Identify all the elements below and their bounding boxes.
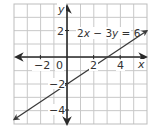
x-tick-label-neg2: −2 [34, 59, 50, 72]
x-axis-label: x [137, 58, 145, 71]
origin-label: 0 [56, 59, 63, 72]
y-tick-label-neg4: −4 [49, 104, 65, 117]
x-tick-label-4: 4 [117, 59, 124, 72]
x-tick-label-2: 2 [90, 59, 97, 72]
y-tick-label-2: 2 [57, 25, 64, 38]
coordinate-plane: −2 0 2 4 2 −2 −4 x y 2x − 3y = 6 [0, 0, 152, 129]
equation-label: 2x − 3y = 6 [77, 27, 141, 39]
y-tick-label-neg2: −2 [49, 78, 65, 91]
y-axis-label: y [57, 3, 65, 16]
